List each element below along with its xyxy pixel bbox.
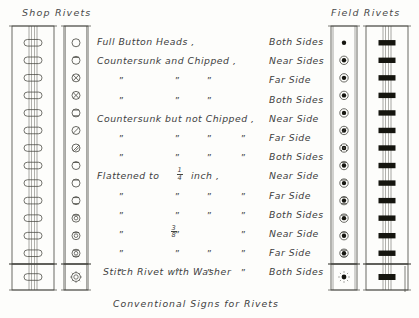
rivet-elevation-bar — [379, 198, 396, 203]
rivet-head-outline — [24, 180, 42, 187]
shop-symbol — [72, 179, 80, 187]
washer-hatch — [347, 273, 348, 274]
stitch-box-shop-elevation — [9, 264, 57, 290]
ditto-mark: ” — [241, 192, 246, 202]
sheet-caption: Conventional Signs for Rivets — [113, 298, 279, 309]
description-row: Countersunk and Chipped ,Near Sides — [97, 53, 322, 72]
rivet-head-outline — [24, 197, 42, 204]
shop-symbol — [72, 126, 80, 134]
rivet-head-outline — [24, 92, 42, 99]
ditto-mark: ” — [241, 153, 246, 163]
ditto-mark: ” — [119, 76, 124, 86]
row-side: Both Sides — [269, 94, 324, 105]
rivet-elevation-head — [24, 180, 42, 187]
row-side: Both Sides — [269, 209, 324, 220]
row-description: Full Button Heads , — [97, 36, 195, 47]
description-row: Countersunk but not Chipped ,Near Side — [97, 111, 322, 130]
stitch-box-shop-symbol — [61, 264, 91, 290]
washer-hatch — [347, 280, 348, 281]
washer-hatch — [340, 280, 341, 281]
symbol-solid-dot — [342, 198, 346, 202]
inner-ring — [74, 234, 78, 238]
shop-symbol — [72, 91, 80, 99]
washer-hatch — [79, 280, 80, 281]
inner-ring — [74, 251, 78, 255]
ditto-mark: ” — [175, 96, 180, 106]
rivet-elevation-head — [24, 127, 42, 134]
shop-symbol — [72, 214, 80, 222]
ditto-mark: ” — [207, 249, 212, 259]
field-symbol — [340, 56, 348, 64]
row-side: Both Sides — [269, 36, 324, 47]
ditto-mark: ” — [119, 96, 124, 106]
symbol-solid-dot — [342, 216, 346, 220]
field-symbol — [340, 126, 348, 134]
rivet-head-outline — [24, 162, 42, 169]
washer-hatch — [340, 273, 341, 274]
ditto-mark: ” — [241, 230, 246, 240]
fraction-quarter: 14 — [177, 167, 183, 181]
rivet-elevation-head — [24, 215, 42, 222]
field-symbol — [340, 249, 348, 257]
rivet-head-outline — [24, 57, 42, 64]
rivet-elevation-bar — [379, 180, 396, 185]
description-row: ”””Both Sides — [97, 92, 322, 111]
field-symbol — [340, 231, 348, 239]
symbol-solid-dot — [342, 58, 346, 62]
shop-symbol — [72, 144, 80, 152]
rivet-head-outline — [24, 250, 42, 257]
row-side: Both Sides — [269, 266, 324, 277]
ditto-mark: ” — [207, 153, 212, 163]
ditto-mark: ” — [175, 134, 180, 144]
row-side: Near Side — [269, 228, 319, 239]
row-description: Countersunk and Chipped , — [97, 55, 236, 66]
ditto-mark: ” — [175, 211, 180, 221]
symbol-solid-dot — [342, 111, 346, 115]
shop-symbol — [72, 249, 80, 257]
fraction-denominator: 8 — [171, 232, 177, 239]
rivet-head-outline — [24, 232, 42, 239]
shop-symbol — [72, 232, 80, 240]
row-description: Countersunk but not Chipped , — [97, 113, 255, 124]
symbol-solid-dot — [342, 93, 346, 97]
row-side: Far Side — [269, 247, 311, 258]
description-row: ””””Both Sides — [97, 207, 322, 226]
ditto-mark: ” — [119, 192, 124, 202]
field-symbol — [340, 144, 348, 152]
description-row: Flattened to14inch ,Near Side — [97, 168, 322, 187]
ditto-mark: ” — [119, 211, 124, 221]
ditto-mark: ” — [241, 249, 246, 259]
ditto-mark: ” — [241, 134, 246, 144]
rivet-elevation-bar — [379, 93, 396, 98]
rivet-head-outline — [24, 215, 42, 222]
rivet-elevation-head — [24, 232, 42, 239]
ditto-mark: ” — [175, 153, 180, 163]
washer-inner-ring — [74, 275, 78, 279]
column-field-symbols — [328, 26, 360, 264]
plate-outline — [64, 26, 88, 264]
ditto-mark: ” — [175, 76, 180, 86]
ditto-mark: ” — [119, 153, 124, 163]
shop-symbol — [72, 162, 80, 170]
shop-symbol — [72, 56, 80, 64]
ditto-mark: ” — [241, 268, 246, 278]
row-side: Near Side — [269, 170, 319, 181]
description-row: ”””38Near Side — [97, 226, 322, 245]
shop-symbol — [72, 39, 80, 47]
field-symbol — [340, 214, 348, 222]
fraction-three_eighths: 38 — [171, 225, 177, 239]
rivet-head-outline — [24, 39, 42, 46]
column-shop-elevation — [9, 26, 57, 264]
row-side: Far Side — [269, 132, 311, 143]
slash-a — [73, 128, 79, 134]
field-symbol — [340, 196, 348, 204]
rivet-elevation-head — [24, 57, 42, 64]
row-description: Flattened to — [97, 170, 159, 181]
description-row: ”””Far Side — [97, 72, 322, 91]
rivet-head-outline — [24, 75, 42, 82]
washer-solid-dot — [342, 275, 347, 280]
ditto-mark: ” — [207, 76, 212, 86]
rivet-elevation-head — [24, 110, 42, 117]
rivet-elevation-bar — [379, 128, 396, 133]
plate-outline — [12, 264, 54, 290]
